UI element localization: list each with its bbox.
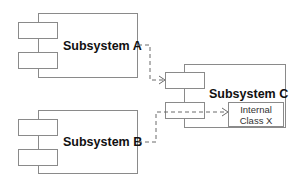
subsystem-a-port-top bbox=[19, 23, 58, 39]
subsystem-b-label: Subsystem B bbox=[63, 135, 142, 149]
subsystem-b[interactable]: Subsystem B bbox=[19, 111, 143, 174]
subsystem-b-port-bottom bbox=[19, 150, 58, 166]
subsystem-a-port-bottom bbox=[19, 53, 58, 69]
subsystem-b-port-top bbox=[19, 120, 58, 136]
subsystem-c-port-top bbox=[166, 73, 205, 89]
component-diagram: Subsystem A Subsystem B Subsystem C Inte… bbox=[0, 0, 298, 184]
connection-a-to-c bbox=[138, 45, 165, 84]
internal-class-x[interactable]: Internal Class X bbox=[229, 103, 284, 127]
subsystem-c-port-bottom bbox=[166, 103, 205, 119]
subsystem-a[interactable]: Subsystem A bbox=[19, 14, 142, 78]
internal-class-line1: Internal bbox=[240, 104, 272, 115]
subsystem-c[interactable]: Subsystem C Internal Class X bbox=[166, 65, 289, 128]
subsystem-c-label: Subsystem C bbox=[209, 87, 288, 101]
subsystem-a-label: Subsystem A bbox=[63, 39, 142, 53]
internal-class-line2: Class X bbox=[240, 115, 273, 126]
